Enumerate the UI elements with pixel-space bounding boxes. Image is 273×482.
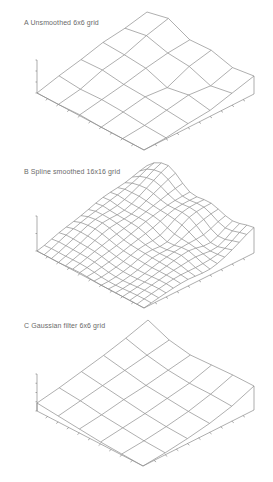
y-tick	[154, 460, 156, 462]
x-tick	[110, 291, 112, 293]
x-tick	[130, 461, 132, 463]
y-tick	[155, 303, 157, 305]
mesh-line	[130, 224, 240, 301]
mesh-line	[80, 40, 190, 115]
mesh-line	[147, 12, 254, 76]
x-tick	[56, 422, 58, 424]
y-tick	[177, 292, 179, 294]
y-tick	[165, 455, 167, 457]
mesh-line	[66, 173, 176, 266]
y-tick	[210, 432, 212, 434]
mesh-line	[87, 197, 197, 277]
mesh-line	[79, 355, 190, 429]
x-tick	[46, 257, 48, 259]
x-tick	[99, 285, 101, 287]
y-tick	[187, 444, 189, 446]
x-tick	[46, 417, 48, 419]
mesh-line	[58, 340, 169, 416]
mesh-line	[59, 76, 166, 138]
mesh-line	[125, 28, 232, 93]
y-tick	[221, 270, 223, 272]
x-tick	[109, 450, 111, 452]
x-tick	[77, 433, 79, 435]
y-tick	[210, 116, 212, 118]
mesh-line	[37, 12, 147, 93]
y-tick	[232, 105, 234, 107]
mesh-line	[122, 375, 233, 454]
y-tick	[199, 281, 201, 283]
mesh-line	[148, 320, 254, 386]
x-tick	[46, 99, 48, 101]
mesh-line	[37, 403, 143, 466]
x-tick	[67, 428, 69, 430]
mesh-line	[94, 200, 204, 281]
x-tick	[99, 127, 101, 129]
x-tick	[131, 144, 133, 146]
x-tick	[120, 455, 122, 457]
x-tick	[121, 297, 123, 299]
mesh-line	[81, 60, 188, 124]
y-tick	[232, 264, 234, 266]
y-tick	[243, 416, 245, 418]
mesh-line	[101, 365, 212, 442]
mesh-line	[123, 68, 233, 139]
y-tick	[221, 111, 223, 113]
x-tick	[89, 122, 91, 124]
mesh-line	[125, 183, 232, 250]
surface-plot-b	[36, 163, 255, 308]
mesh-line	[140, 169, 247, 234]
x-tick	[56, 262, 58, 264]
y-tick	[199, 122, 201, 124]
y-tick	[166, 139, 168, 141]
y-tick	[176, 449, 178, 451]
mesh-line	[103, 42, 210, 110]
x-tick	[78, 116, 80, 118]
x-tick	[89, 280, 91, 282]
y-tick	[155, 144, 157, 146]
surface-plots	[0, 0, 273, 482]
surface-plot-a	[36, 12, 255, 150]
x-tick	[131, 302, 133, 304]
x-tick	[67, 268, 69, 270]
mesh-line	[37, 320, 148, 403]
mesh-line	[147, 163, 254, 228]
mesh-line	[81, 372, 187, 439]
x-tick	[67, 110, 69, 112]
y-tick	[199, 438, 201, 440]
mesh-line	[144, 76, 254, 150]
mesh-line	[59, 388, 165, 453]
mesh-line	[104, 355, 210, 423]
y-tick	[188, 286, 190, 288]
y-tick	[243, 100, 245, 102]
y-tick	[232, 421, 234, 423]
x-tick	[99, 444, 101, 446]
x-tick	[121, 139, 123, 141]
mesh-line	[144, 228, 254, 309]
y-tick	[243, 259, 245, 261]
x-tick	[78, 274, 80, 276]
y-tick	[188, 128, 190, 130]
mesh-line	[143, 386, 254, 466]
y-tick	[177, 133, 179, 135]
x-tick	[88, 439, 90, 441]
x-tick	[56, 104, 58, 106]
y-tick	[210, 275, 212, 277]
surface-plot-c	[36, 320, 255, 466]
mesh-line	[126, 338, 232, 406]
y-tick	[166, 297, 168, 299]
x-tick	[110, 133, 112, 135]
mesh-line	[37, 166, 147, 251]
y-tick	[221, 427, 223, 429]
